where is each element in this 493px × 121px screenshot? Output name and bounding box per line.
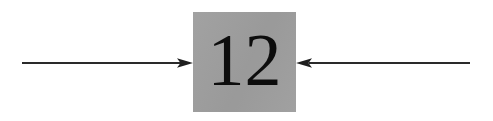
node-box-12: 12 (193, 12, 296, 112)
node-label: 12 (208, 23, 282, 97)
incoming-arrow-left (22, 58, 193, 67)
diagram-canvas: 12 (0, 0, 493, 121)
incoming-arrow-right (296, 58, 470, 67)
